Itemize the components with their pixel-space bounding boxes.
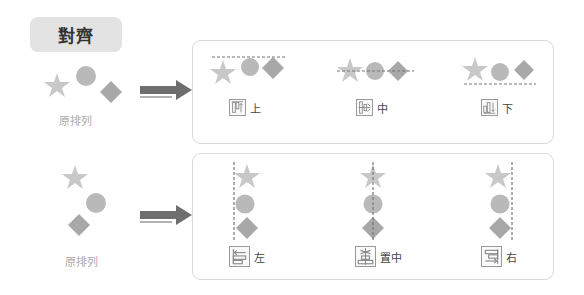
option-align-left[interactable]: 左 — [229, 246, 265, 267]
align-bottom-icon — [481, 99, 498, 116]
arrow-icon — [140, 80, 192, 104]
option-label: 左 — [254, 249, 265, 265]
align-right-icon — [481, 246, 502, 267]
option-align-middle[interactable]: 中 — [356, 99, 388, 116]
option-label: 中 — [377, 100, 388, 116]
align-bottom-preview — [462, 57, 542, 87]
option-label: 置中 — [380, 249, 402, 265]
align-center-preview — [357, 162, 397, 244]
section-title: 對齊 — [30, 17, 122, 52]
align-left-icon — [229, 246, 250, 267]
option-align-right[interactable]: 右 — [481, 246, 517, 267]
diamond-shape — [68, 214, 90, 236]
shapes-original-horizontal — [45, 62, 125, 107]
shapes-original-vertical — [60, 165, 110, 240]
option-label: 右 — [506, 249, 517, 265]
star-shape — [62, 165, 88, 189]
align-center-icon — [355, 246, 376, 267]
option-align-top[interactable]: 上 — [229, 99, 261, 116]
align-top-icon — [229, 99, 246, 116]
align-left-preview — [230, 162, 270, 244]
original-arrangement-vertical — [60, 165, 110, 240]
arrow-icon — [140, 205, 192, 229]
align-top-preview — [210, 55, 290, 85]
original-arrangement-horizontal — [45, 62, 125, 107]
circle-shape — [76, 66, 96, 86]
circle-shape — [86, 193, 106, 213]
align-middle-preview — [337, 57, 417, 87]
original-caption: 原排列 — [65, 253, 98, 269]
diamond-shape — [100, 81, 122, 103]
align-middle-icon — [356, 99, 373, 116]
star-shape — [44, 73, 70, 97]
original-caption: 原排列 — [59, 112, 92, 128]
option-label: 下 — [502, 100, 513, 116]
option-align-center[interactable]: 置中 — [355, 246, 402, 267]
option-align-bottom[interactable]: 下 — [481, 99, 513, 116]
option-label: 上 — [250, 100, 261, 116]
align-right-preview — [484, 162, 524, 244]
